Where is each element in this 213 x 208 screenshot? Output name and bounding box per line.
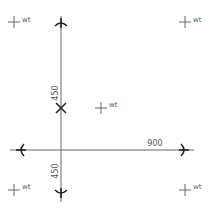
crosshair-icon [179, 184, 191, 196]
marker-label: wt [22, 16, 31, 24]
diagram-canvas: 450 450 900 wt wt wt wt wt [0, 0, 213, 208]
crosshair-icon [95, 102, 107, 114]
tick-left-icon [16, 144, 26, 156]
marker-label: wt [109, 101, 118, 109]
tick-bottom-icon [55, 188, 67, 198]
dimension-label-vertical-lower: 450 [51, 163, 60, 178]
tick-right-icon [179, 144, 189, 156]
marker-label: wt [193, 16, 202, 24]
dimension-label-vertical-upper: 450 [51, 85, 60, 100]
crosshair-icon [8, 16, 20, 28]
dimension-label-horizontal: 900 [147, 139, 162, 148]
crosshair-icon [8, 184, 20, 196]
crosshair-icon [179, 16, 191, 28]
marker-label: wt [193, 183, 202, 191]
marker-label: wt [22, 183, 31, 191]
tick-top-icon [55, 18, 67, 28]
dimension-drawing: 450 450 900 wt wt wt wt wt [0, 0, 213, 208]
